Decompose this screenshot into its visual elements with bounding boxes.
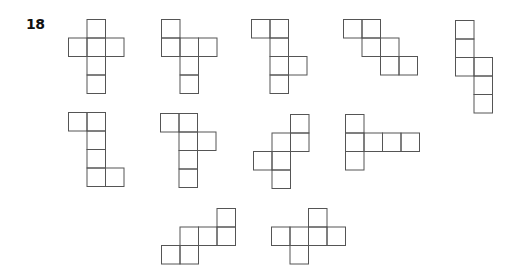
net-square bbox=[179, 169, 198, 188]
net-square bbox=[270, 57, 289, 76]
net-square bbox=[362, 20, 381, 39]
net-square bbox=[381, 57, 400, 76]
net-square bbox=[272, 152, 291, 171]
net-square bbox=[270, 20, 289, 39]
net-square bbox=[346, 133, 365, 152]
net-square bbox=[252, 20, 271, 39]
net-square bbox=[474, 76, 493, 95]
net-10 bbox=[162, 209, 236, 265]
net-square bbox=[290, 227, 309, 246]
net-square bbox=[106, 38, 125, 57]
net-square bbox=[272, 227, 291, 246]
net-square bbox=[87, 168, 106, 187]
net-square bbox=[87, 38, 106, 57]
net-4 bbox=[344, 20, 418, 76]
net-square bbox=[69, 113, 88, 132]
net-square bbox=[291, 115, 310, 134]
net-square bbox=[87, 75, 106, 94]
net-square bbox=[474, 95, 493, 114]
net-square bbox=[217, 227, 236, 246]
net-square bbox=[291, 133, 310, 152]
net-square bbox=[327, 227, 346, 246]
net-square bbox=[179, 114, 198, 133]
cube-nets-figure bbox=[0, 0, 515, 267]
net-square bbox=[198, 132, 217, 151]
net-2 bbox=[162, 20, 218, 94]
net-square bbox=[161, 114, 180, 133]
net-square bbox=[364, 133, 383, 152]
net-square bbox=[383, 133, 402, 152]
net-square bbox=[199, 38, 218, 57]
net-square bbox=[401, 133, 420, 152]
net-square bbox=[180, 246, 199, 265]
net-6 bbox=[69, 113, 125, 187]
net-square bbox=[69, 38, 88, 57]
net-square bbox=[272, 170, 291, 189]
net-square bbox=[290, 246, 309, 265]
net-square bbox=[344, 20, 363, 39]
net-square bbox=[106, 168, 125, 187]
net-square bbox=[456, 39, 475, 58]
net-square bbox=[199, 227, 218, 246]
net-square bbox=[162, 246, 181, 265]
net-square bbox=[346, 152, 365, 171]
net-square bbox=[180, 227, 199, 246]
net-square bbox=[87, 150, 106, 169]
net-square bbox=[87, 20, 106, 39]
net-square bbox=[217, 209, 236, 228]
net-square bbox=[270, 75, 289, 94]
net-11 bbox=[272, 209, 346, 265]
net-square bbox=[456, 21, 475, 40]
net-square bbox=[180, 57, 199, 76]
net-9 bbox=[346, 115, 420, 171]
net-square bbox=[87, 57, 106, 76]
net-square bbox=[272, 133, 291, 152]
net-square bbox=[87, 113, 106, 132]
net-1 bbox=[69, 20, 125, 94]
net-3 bbox=[252, 20, 308, 94]
net-square bbox=[180, 75, 199, 94]
net-square bbox=[362, 38, 381, 57]
net-square bbox=[399, 57, 418, 76]
net-square bbox=[456, 58, 475, 77]
net-square bbox=[381, 38, 400, 57]
net-square bbox=[162, 38, 181, 57]
net-square bbox=[180, 38, 199, 57]
net-7 bbox=[161, 114, 217, 188]
net-square bbox=[346, 115, 365, 134]
net-square bbox=[270, 38, 289, 57]
net-5 bbox=[456, 21, 493, 114]
net-square bbox=[179, 132, 198, 151]
net-8 bbox=[254, 115, 310, 189]
net-square bbox=[309, 227, 328, 246]
net-square bbox=[254, 152, 273, 171]
net-square bbox=[179, 151, 198, 170]
net-square bbox=[309, 209, 328, 228]
net-square bbox=[162, 20, 181, 39]
net-square bbox=[87, 131, 106, 150]
net-square bbox=[289, 57, 308, 76]
net-square bbox=[474, 58, 493, 77]
